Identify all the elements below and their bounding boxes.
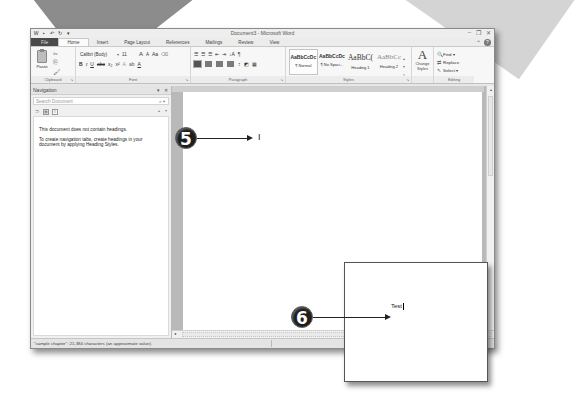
subscript-button[interactable]: x₂ (108, 61, 112, 67)
clear-formatting-icon[interactable]: ⌫ (161, 51, 168, 57)
ribbon-help-area: ⌃ ? (476, 39, 491, 46)
chevron-up-icon[interactable]: ▴ (487, 87, 494, 92)
grow-font-button[interactable]: A (139, 51, 143, 57)
italic-button[interactable]: I (86, 62, 88, 67)
line-spacing-icon[interactable]: ↕ (238, 61, 241, 67)
status-divider (271, 340, 272, 347)
style-normal[interactable]: AaBbCcDc ¶ Normal (289, 49, 318, 75)
callout-arrow-5 (197, 138, 247, 139)
font-group-label: Font (76, 76, 190, 83)
chevron-left-icon[interactable]: ◂ (174, 331, 176, 336)
font-color-button[interactable]: A (138, 61, 141, 67)
multilevel-list-icon[interactable]: ☰ (208, 51, 212, 57)
tab-review[interactable]: Review (230, 38, 261, 46)
browse-pages-tab[interactable]: ▦ (43, 109, 49, 115)
text-effects-icon[interactable]: A (123, 61, 126, 67)
align-center-icon[interactable] (205, 61, 212, 67)
browse-results-tab[interactable]: ≡ (52, 109, 58, 115)
change-styles-button[interactable]: A Change Styles (412, 47, 434, 83)
paragraph-group-label: Paragraph (191, 76, 285, 83)
font-size-dropdown[interactable]: 11 (122, 51, 136, 58)
status-text: "sample chapter": 21,384 characters (an … (34, 341, 152, 346)
search-document-input[interactable]: Search Document ⌕ ▾ (33, 97, 169, 105)
restore-icon[interactable]: ❐ (476, 29, 481, 36)
borders-icon[interactable]: ▦ (252, 61, 257, 67)
text-cursor: I (258, 132, 261, 142)
navigation-content: This document does not contain headings.… (33, 116, 169, 336)
next-icon[interactable]: ▾ (165, 108, 167, 113)
clipboard-small-buttons: ✂ ⎘ 🖌 (53, 50, 61, 75)
navigation-pane: Navigation ▾ ✕ Search Document ⌕ ▾ ⊃ ▦ ≡… (31, 86, 172, 338)
navigation-title: Navigation (33, 87, 57, 93)
decrease-indent-icon[interactable]: ⇤ (215, 51, 219, 57)
cut-icon[interactable]: ✂ (53, 50, 61, 57)
highlight-icon[interactable]: ab (129, 61, 135, 67)
sort-icon[interactable]: ↓A (229, 51, 235, 57)
tab-mailings[interactable]: Mailings (197, 38, 230, 46)
show-marks-button[interactable]: ¶ (238, 51, 241, 57)
browse-headings-tab[interactable]: ⊃ (34, 109, 40, 115)
minimize-ribbon-icon[interactable]: ⌃ (476, 39, 481, 46)
typed-text: Test (391, 303, 404, 310)
dialog-launcher-icon[interactable]: ↘ (406, 77, 409, 82)
paste-button[interactable]: Paste (34, 50, 50, 69)
close-icon[interactable]: ✕ (164, 86, 168, 95)
chevron-down-icon[interactable]: ▾ (117, 52, 119, 57)
increase-indent-icon[interactable]: ⇥ (222, 51, 226, 57)
styles-group-label-spacer (412, 76, 433, 83)
close-icon[interactable]: ✕ (486, 29, 491, 36)
title-bar: W ▪ ↶ ↻ ▾ Document3 - Microsoft Word – ❐… (31, 29, 494, 38)
scroll-thumb[interactable] (488, 96, 493, 176)
clipboard-group-label: Clipboard (31, 76, 75, 83)
chevron-down-icon[interactable]: ▾ (403, 64, 408, 69)
zoom-inset: Test (344, 262, 488, 382)
text-caret (403, 303, 404, 310)
create-headings-hint: To create navigation tabs, create headin… (39, 137, 163, 148)
help-icon[interactable]: ? (484, 39, 491, 46)
copy-icon[interactable]: ⎘ (53, 59, 61, 66)
window-controls: – ❐ ✕ (468, 29, 491, 36)
underline-button[interactable]: U (90, 61, 94, 67)
bullets-icon[interactable]: ☰ (194, 51, 198, 57)
shrink-font-button[interactable]: A (146, 52, 149, 57)
change-case-button[interactable]: Aa (152, 51, 158, 57)
superscript-button[interactable]: x² (115, 61, 119, 67)
align-left-icon[interactable] (194, 61, 201, 67)
style-heading-1[interactable]: AaBbC( Heading 1 (346, 49, 375, 75)
chevron-up-icon[interactable]: ▴ (403, 56, 408, 61)
align-right-icon[interactable] (216, 61, 223, 67)
bold-button[interactable]: B (79, 61, 83, 67)
select-button[interactable]: ↖Select ▾ (437, 66, 471, 74)
font-name-dropdown[interactable]: Calibri (Body) (79, 51, 114, 58)
previous-icon[interactable]: ▴ (158, 108, 160, 113)
tab-page-layout[interactable]: Page Layout (116, 38, 158, 46)
font-group: Calibri (Body) ▾ 11 A A Aa ⌫ B I U abc x… (76, 47, 191, 83)
paste-label: Paste (34, 64, 50, 69)
justify-icon[interactable] (227, 61, 234, 67)
replace-button[interactable]: ⇄Replace (437, 58, 471, 66)
style-heading-2[interactable]: AaBbCc Heading 2 (375, 49, 404, 75)
paste-icon (37, 50, 47, 63)
numbering-icon[interactable]: ☰ (201, 51, 205, 57)
tab-references[interactable]: References (158, 38, 198, 46)
dialog-launcher-icon[interactable]: ↘ (70, 77, 73, 82)
editing-group-label: Editing (434, 76, 474, 83)
styles-group-label: Styles (286, 76, 411, 83)
style-no-spacing[interactable]: AaBbCcDc ¶ No Spaci... (318, 49, 347, 75)
tab-view[interactable]: View (261, 38, 287, 46)
dialog-launcher-icon[interactable]: ↘ (280, 77, 283, 82)
callout-badge-6: 6 (291, 306, 313, 328)
strikethrough-button[interactable]: abc (97, 61, 105, 67)
dialog-launcher-icon[interactable]: ↘ (185, 77, 188, 82)
tab-home[interactable]: Home (58, 38, 88, 46)
shading-icon[interactable]: ◩ (244, 61, 249, 67)
callout-badge-5: 5 (175, 127, 197, 149)
styles-group: AaBbCcDc ¶ Normal AaBbCcDc ¶ No Spaci...… (286, 47, 412, 83)
chevron-down-icon[interactable]: ▾ (157, 86, 160, 95)
tab-file[interactable]: File (31, 38, 58, 46)
find-button[interactable]: 🔍Find ▾ (437, 50, 471, 58)
minimize-icon[interactable]: – (468, 29, 471, 36)
tab-insert[interactable]: Insert (89, 38, 117, 46)
format-painter-icon[interactable]: 🖌 (53, 68, 61, 75)
search-icon[interactable]: ⌕ ▾ (159, 98, 165, 105)
